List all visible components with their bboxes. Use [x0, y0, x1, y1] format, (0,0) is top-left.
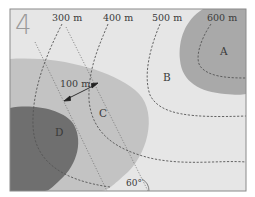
region-label-a: A: [219, 45, 228, 57]
contour-map: 4 300 m 400 m 500 m 600 m A B C D 100 m …: [0, 0, 255, 197]
region-label-b: B: [163, 71, 171, 83]
contour-label-500m: 500 m: [152, 12, 182, 23]
contour-label-600m: 600 m: [207, 12, 237, 23]
figure-number: 4: [15, 10, 32, 40]
region-label-c: C: [99, 107, 107, 119]
angle-label: 60°: [126, 178, 142, 188]
contour-label-300m: 300 m: [52, 12, 82, 23]
distance-label: 100 m: [60, 78, 90, 89]
region-label-d: D: [55, 126, 63, 138]
contour-label-400m: 400 m: [103, 12, 133, 23]
